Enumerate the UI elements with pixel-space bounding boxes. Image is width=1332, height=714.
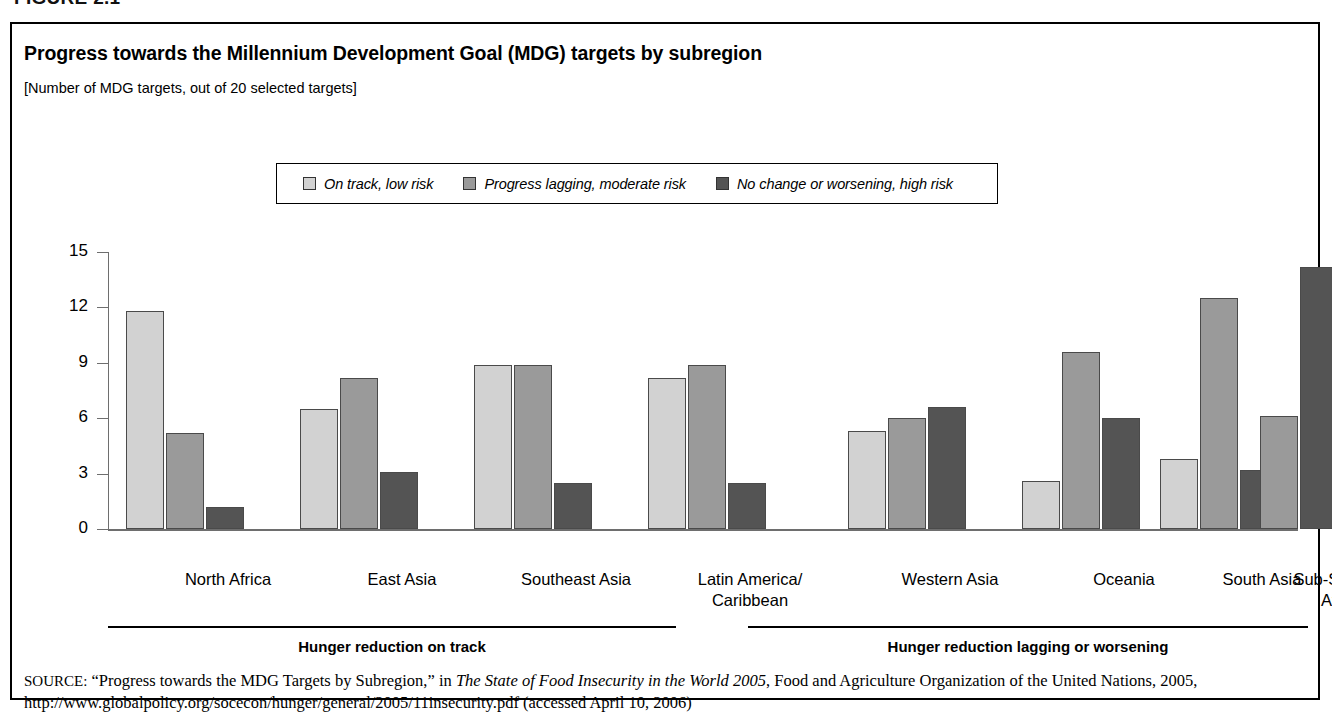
bar xyxy=(728,483,766,529)
chart-legend: On track, low riskProgress lagging, mode… xyxy=(276,163,998,204)
bar xyxy=(1160,459,1198,529)
source-prefix: SOURCE: xyxy=(24,673,87,689)
bar xyxy=(166,433,204,529)
bar xyxy=(1200,298,1238,529)
group-label: Hunger reduction on track xyxy=(108,638,676,655)
x-axis-category-label: Latin America/Caribbean xyxy=(640,569,860,611)
bar xyxy=(928,407,966,529)
legend-label: On track, low risk xyxy=(324,176,433,192)
figure-frame: Progress towards the Millennium Developm… xyxy=(10,22,1320,700)
bars-layer xyxy=(108,230,1298,530)
legend-swatch-icon xyxy=(716,177,729,190)
y-axis-tick-label: 12 xyxy=(44,296,88,316)
source-italic-title: The State of Food Insecurity in the Worl… xyxy=(456,671,766,690)
source-part1: “Progress towards the MDG Targets by Sub… xyxy=(87,671,456,690)
bar xyxy=(1062,352,1100,529)
legend-item: No change or worsening, high risk xyxy=(716,176,953,192)
chart-title: Progress towards the Millennium Developm… xyxy=(24,42,762,65)
legend-item: On track, low risk xyxy=(303,176,433,192)
x-axis-category-label: Sub-SaharanAfrica xyxy=(1232,569,1332,611)
category-labels: North AfricaEast AsiaSoutheast AsiaLatin… xyxy=(108,569,1318,623)
y-axis-tick-label: 0 xyxy=(44,518,88,538)
bar xyxy=(206,507,244,529)
y-axis-tick-label: 3 xyxy=(44,463,88,483)
bar xyxy=(1022,481,1060,529)
bar xyxy=(888,418,926,529)
group-rule xyxy=(108,626,676,628)
bar xyxy=(300,409,338,529)
legend-swatch-icon xyxy=(463,177,476,190)
figure-number-label: FIGURE 2.1 xyxy=(14,0,120,9)
chart-subtitle: [Number of MDG targets, out of 20 select… xyxy=(24,80,357,96)
bar xyxy=(1300,267,1332,529)
bar xyxy=(1260,416,1298,529)
source-note: SOURCE: “Progress towards the MDG Target… xyxy=(24,670,1309,713)
legend-swatch-icon xyxy=(303,177,316,190)
figure-page: FIGURE 2.1 Progress towards the Millenni… xyxy=(0,0,1332,714)
bar xyxy=(474,365,512,529)
plot-area: 03691215 xyxy=(44,230,1304,560)
group-rule xyxy=(748,626,1308,628)
legend-label: No change or worsening, high risk xyxy=(737,176,953,192)
bar xyxy=(1102,418,1140,529)
y-axis-tick-label: 15 xyxy=(44,241,88,261)
group-label: Hunger reduction lagging or worsening xyxy=(748,638,1308,655)
legend-item: Progress lagging, moderate risk xyxy=(463,176,686,192)
y-axis-tick-label: 9 xyxy=(44,352,88,372)
bar xyxy=(126,311,164,529)
bar xyxy=(514,365,552,529)
bar xyxy=(380,472,418,529)
y-axis-tick-label: 6 xyxy=(44,407,88,427)
bar xyxy=(688,365,726,529)
bar xyxy=(648,378,686,529)
bar xyxy=(340,378,378,529)
bar xyxy=(848,431,886,529)
bar xyxy=(554,483,592,529)
legend-label: Progress lagging, moderate risk xyxy=(484,176,686,192)
